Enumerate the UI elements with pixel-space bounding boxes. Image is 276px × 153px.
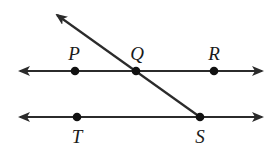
label-P: P: [68, 44, 80, 63]
parallel-lines-diagram: PQRTS: [0, 0, 276, 153]
point-R: [210, 67, 219, 76]
label-T: T: [72, 127, 83, 146]
point-S: [196, 113, 205, 122]
label-S: S: [195, 127, 205, 146]
point-P: [71, 67, 80, 76]
point-Q: [132, 67, 141, 76]
label-R: R: [208, 44, 220, 63]
point-T: [73, 113, 82, 122]
label-Q: Q: [130, 44, 144, 63]
transversal: [57, 15, 200, 117]
diagram-canvas: [0, 0, 276, 153]
